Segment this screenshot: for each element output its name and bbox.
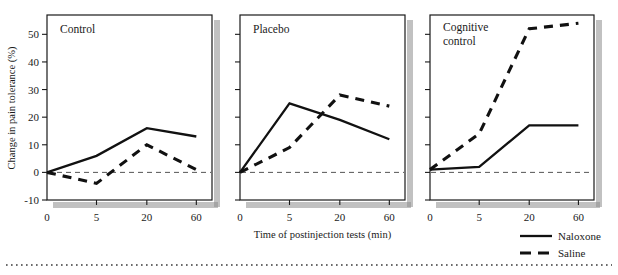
x-tick-label: 20 <box>334 211 346 223</box>
x-tick-label: 0 <box>237 211 243 223</box>
chart-panel-1: -1001020304050052060Control <box>24 15 220 223</box>
legend: NaloxoneSaline <box>520 230 601 259</box>
panel-shadow-bottom <box>53 202 218 208</box>
figure-root: -1001020304050052060Control052060Placebo… <box>0 0 618 275</box>
x-tick-label: 20 <box>141 211 153 223</box>
x-tick-label: 60 <box>191 211 203 223</box>
y-tick-label: 20 <box>28 111 40 123</box>
chart-panel-2: 052060Placebo <box>235 15 413 223</box>
y-tick-label: 40 <box>28 56 40 68</box>
y-axis-title: Change in pain tolerance (%) <box>6 46 18 170</box>
panel-shadow-right <box>407 20 413 207</box>
pain-tolerance-multipanel-chart: -1001020304050052060Control052060Placebo… <box>0 0 618 275</box>
y-tick-label: 30 <box>28 84 40 96</box>
panel-title-1: Control <box>60 23 95 35</box>
panel-title-3-line2: control <box>443 35 476 47</box>
panel-shadow-right <box>596 20 602 207</box>
series-line-saline <box>240 95 389 172</box>
y-tick-label: -10 <box>24 194 39 206</box>
x-tick-label: 20 <box>524 211 536 223</box>
x-axis-title: Time of postinjection tests (min) <box>254 229 392 241</box>
panel-title-2: Placebo <box>253 23 290 35</box>
panel-shadow-bottom <box>246 202 411 208</box>
chart-panel-3: 052060Cognitivecontrol <box>425 15 602 223</box>
panel-title-3-line1: Cognitive <box>443 21 488 34</box>
x-tick-label: 0 <box>427 211 433 223</box>
x-tick-label: 5 <box>476 211 482 223</box>
x-tick-label: 60 <box>573 211 585 223</box>
y-tick-label: 10 <box>28 139 40 151</box>
x-tick-label: 60 <box>384 211 396 223</box>
x-tick-label: 0 <box>44 211 50 223</box>
y-tick-label: 50 <box>28 28 40 40</box>
x-tick-label: 5 <box>94 211 100 223</box>
series-line-naloxone <box>430 125 578 169</box>
panel-shadow-bottom <box>436 202 600 208</box>
x-tick-label: 5 <box>287 211 293 223</box>
y-tick-label: 0 <box>34 166 40 178</box>
legend-label-naloxone: Naloxone <box>558 230 601 242</box>
panel-shadow-right <box>214 20 220 207</box>
legend-label-saline: Saline <box>558 247 586 259</box>
